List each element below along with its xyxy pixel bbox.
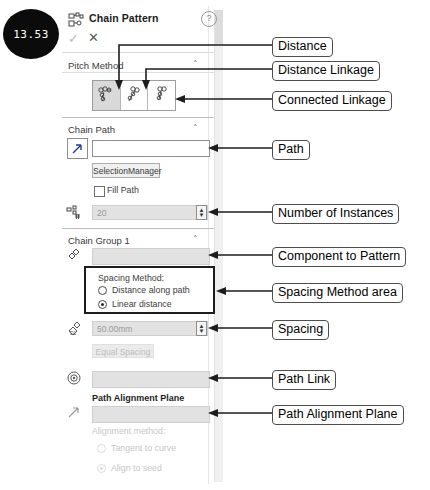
cancel-button[interactable]: ✕: [88, 32, 99, 44]
radio-align-to-seed-label: Align to seed: [111, 463, 162, 473]
accept-button[interactable]: ✓: [68, 33, 79, 45]
radio-linear-distance[interactable]: [98, 300, 107, 309]
radio-tangent-to-curve[interactable]: [97, 444, 106, 453]
selection-manager-button[interactable]: SelectionManager: [92, 163, 160, 178]
chevron-up-icon-chain-path[interactable]: ˄: [193, 123, 198, 133]
spacing-input[interactable]: 50.00mm: [92, 321, 208, 336]
instances-icon: [66, 205, 82, 221]
pitch-tile-distance-linkage[interactable]: [121, 81, 149, 110]
fill-path-label: Fill Path: [107, 185, 139, 195]
pitch-method-tiles: [92, 80, 176, 111]
pitch-tile-connected-linkage[interactable]: [148, 81, 175, 110]
annotation-component-to-pattern: Component to Pattern: [272, 247, 406, 267]
equal-spacing-button[interactable]: Equal Spacing: [92, 344, 154, 358]
annotation-distance-linkage: Distance Linkage: [272, 61, 380, 81]
path-alignment-plane-input[interactable]: [92, 406, 210, 423]
path-alignment-icon: [66, 404, 82, 420]
annotation-path-alignment-plane: Path Alignment Plane: [272, 405, 404, 425]
divider-after-pitch-method: [62, 117, 214, 118]
radio-tangent-to-curve-label: Tangent to curve: [111, 443, 176, 453]
figure-number-text: 13.53: [13, 28, 49, 41]
section-title-pitch-method: Pitch Method: [68, 60, 123, 71]
path-alignment-plane-label: Path Alignment Plane: [92, 393, 184, 403]
radio-linear-distance-label: Linear distance: [112, 299, 172, 309]
fill-path-checkbox[interactable]: [94, 186, 105, 197]
alignment-method-label: Alignment method:: [92, 426, 165, 436]
path-link-input[interactable]: [92, 371, 210, 388]
spacing-icon: D1: [66, 321, 82, 337]
instances-input[interactable]: 20: [92, 205, 208, 220]
component-to-pattern-input[interactable]: [92, 248, 210, 265]
annotation-spacing-method-area: Spacing Method area: [272, 283, 403, 303]
radio-align-to-seed[interactable]: [97, 464, 106, 473]
spacing-method-title: Spacing Method:: [98, 273, 164, 283]
annotation-path: Path: [272, 140, 310, 160]
pitch-tile-distance[interactable]: [93, 81, 121, 110]
spacing-stepper[interactable]: ▲ ▼: [196, 321, 207, 336]
help-icon[interactable]: ?: [201, 11, 217, 27]
chevron-up-icon-chain-group[interactable]: ˄: [193, 234, 198, 244]
chain-pattern-icon: [68, 12, 84, 28]
section-title-chain-group: Chain Group 1: [68, 235, 130, 246]
divider-after-chain-path: [62, 228, 214, 229]
panel-header: Chain Pattern ?: [62, 10, 214, 30]
panel-scrollbar[interactable]: [214, 10, 223, 482]
instances-stepper[interactable]: ▲ ▼: [196, 205, 207, 220]
path-select-icon[interactable]: [67, 138, 88, 159]
section-title-chain-path: Chain Path: [68, 124, 115, 135]
stepper-down-icon[interactable]: ▼: [199, 329, 205, 334]
annotation-distance: Distance: [272, 37, 333, 57]
component-icon: [66, 247, 82, 263]
divider-pitch-method: [62, 72, 214, 73]
spacing-method-area: Spacing Method: Distance along path Line…: [84, 266, 215, 314]
annotation-path-link: Path Link: [272, 370, 336, 390]
figure-number-badge: 13.53: [3, 9, 59, 59]
annotation-number-of-instances: Number of Instances: [272, 204, 399, 224]
radio-distance-along-path[interactable]: [98, 286, 107, 295]
chevron-up-icon-pitch-method[interactable]: ˄: [193, 59, 198, 69]
radio-distance-along-path-label: Distance along path: [112, 285, 190, 295]
stepper-down-icon[interactable]: ▼: [199, 213, 205, 218]
svg-text:D1: D1: [70, 330, 77, 336]
path-input[interactable]: [92, 140, 210, 157]
header-divider: [62, 52, 214, 53]
path-link-icon: [66, 370, 82, 386]
annotation-connected-linkage: Connected Linkage: [272, 91, 392, 111]
annotation-spacing: Spacing: [272, 320, 329, 340]
page-title: Chain Pattern: [89, 12, 159, 24]
